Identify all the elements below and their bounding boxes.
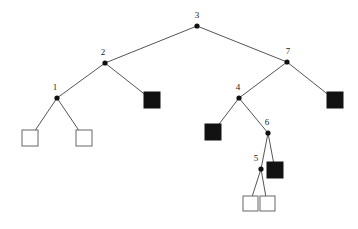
open-leaf-square — [76, 130, 92, 146]
internal-node-dot — [265, 130, 270, 135]
node-label: 6 — [265, 117, 270, 127]
internal-node-dot — [102, 60, 107, 65]
internal-node-dot — [258, 166, 263, 171]
internal-node-dot — [236, 95, 241, 100]
node-label: 4 — [236, 82, 241, 92]
open-leaf-square — [22, 130, 38, 146]
tree-canvas: 3271465 — [0, 0, 358, 229]
open-leaf-square — [243, 196, 258, 211]
open-leaf-square — [260, 196, 275, 211]
node-label: 2 — [101, 47, 106, 57]
node-label: 5 — [254, 153, 259, 163]
binary-tree-figure: 3271465 — [0, 0, 358, 229]
internal-node-dot — [194, 23, 199, 28]
filled-leaf-square — [327, 92, 343, 108]
filled-leaf-square — [144, 92, 160, 108]
filled-leaf-square — [267, 162, 283, 178]
node-label: 7 — [286, 46, 291, 56]
node-label: 3 — [195, 10, 200, 20]
figure-background — [0, 0, 358, 229]
node-label: 1 — [53, 82, 58, 92]
filled-leaf-square — [205, 124, 221, 140]
internal-node-dot — [54, 95, 59, 100]
internal-node-dot — [284, 59, 289, 64]
